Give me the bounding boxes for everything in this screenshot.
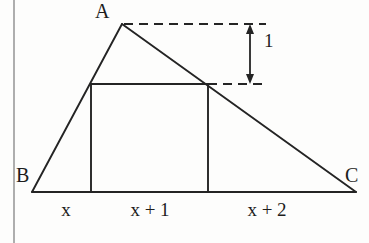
height-measure-label: 1 [264,31,274,50]
geometry-figure: A B C 1 x x + 1 x + 2 [0,0,369,243]
base-segment-label-3: x + 2 [228,200,306,219]
vertex-label-b: B [16,165,29,185]
vertex-label-c: C [345,165,358,185]
triangle-side-ab [32,24,122,192]
base-segment-label-1: x [45,200,87,219]
triangle-side-ac [122,24,356,192]
vertex-label-a: A [95,1,109,21]
height-measure-arrow [246,24,254,84]
base-segment-label-2: x + 1 [112,200,188,219]
